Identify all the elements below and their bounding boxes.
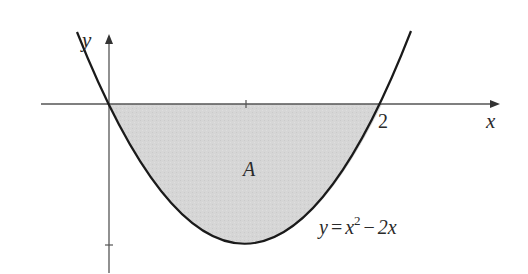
x-tick-label-2: 2	[378, 111, 388, 131]
curve-equation-label: y=x2−2x	[319, 217, 397, 237]
equation-tail: 2x	[378, 216, 397, 238]
x-axis-label: x	[486, 111, 495, 132]
equation-minus: −	[361, 216, 378, 238]
equation-equals: =	[328, 216, 345, 238]
region-label-a: A	[243, 159, 255, 179]
equation-base: x	[345, 216, 354, 238]
equation-lhs: y	[319, 216, 328, 238]
parabola-area-diagram: y x 2 A y=x2−2x	[0, 0, 528, 274]
x-axis-arrow-icon	[490, 100, 500, 108]
plot-canvas	[0, 0, 528, 274]
y-axis-label: y	[82, 30, 91, 51]
equation-exponent: 2	[354, 213, 361, 228]
y-axis-arrow-icon	[105, 34, 113, 44]
